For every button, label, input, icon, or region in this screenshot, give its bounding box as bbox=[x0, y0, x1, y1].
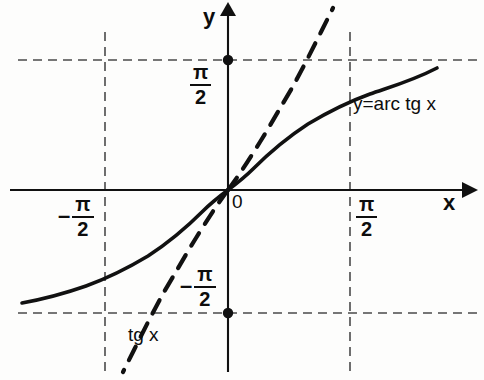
tangent-branch-right bbox=[228, 8, 333, 190]
fraction-pi-over-2: π 2 bbox=[72, 194, 93, 240]
signed-fraction-negative-pi-over-2-x: – π 2 bbox=[58, 194, 94, 240]
plot-canvas bbox=[0, 0, 484, 380]
x-axis-label: x bbox=[443, 192, 455, 214]
point-y-pi-over-2 bbox=[223, 55, 233, 65]
minus-sign: – bbox=[180, 275, 192, 297]
fraction-denominator: 2 bbox=[199, 288, 210, 310]
fraction-numerator: π bbox=[356, 194, 377, 218]
point-y-negative-pi-over-2 bbox=[223, 308, 233, 318]
minus-sign: – bbox=[58, 205, 70, 227]
fraction-pi-over-2-y-positive: π 2 bbox=[190, 62, 211, 108]
fraction-numerator: π bbox=[194, 264, 215, 288]
signed-fraction-negative-pi-over-2-y: – π 2 bbox=[180, 264, 216, 310]
tick-label-x-negative-pi-over-2: – π 2 bbox=[58, 194, 94, 240]
x-axis-arrowhead bbox=[462, 182, 478, 198]
fraction-pi-over-2: π 2 bbox=[194, 264, 215, 310]
coordinate-axes bbox=[10, 2, 478, 372]
y-axis-arrowhead bbox=[220, 2, 236, 16]
fraction-numerator: π bbox=[190, 62, 211, 86]
y-axis-label: y bbox=[203, 6, 215, 28]
arctangent-tangent-graph-figure: y x 0 π 2 – π 2 – π 2 π bbox=[0, 0, 484, 380]
origin-label: 0 bbox=[232, 192, 243, 211]
tick-label-y-pi-over-2: π 2 bbox=[190, 62, 211, 108]
fraction-numerator: π bbox=[72, 194, 93, 218]
tick-label-y-negative-pi-over-2: – π 2 bbox=[180, 264, 216, 310]
fraction-pi-over-2-x-positive: π 2 bbox=[356, 194, 377, 240]
fraction-denominator: 2 bbox=[77, 218, 88, 240]
tick-label-x-pi-over-2: π 2 bbox=[356, 194, 377, 240]
arctangent-curve-label: y=arc tg x bbox=[353, 94, 436, 113]
fraction-denominator: 2 bbox=[361, 218, 372, 240]
tangent-curve-label: tg x bbox=[128, 325, 159, 344]
fraction-denominator: 2 bbox=[195, 86, 206, 108]
